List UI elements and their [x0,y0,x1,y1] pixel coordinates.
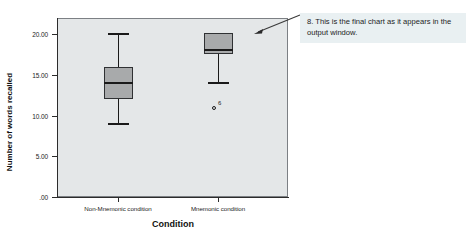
y-tick-15 [52,75,57,76]
y-tick-label-10: 10.00 [32,113,48,120]
y-tick-20 [52,34,57,35]
y-tick-0 [52,197,57,198]
x-tick-label-mnemonic: Mnemonic condition [191,205,245,212]
whisker-cap-lower [108,123,129,125]
y-tick-10 [52,116,57,117]
whisker-stem-lower [218,54,219,83]
plot-area [57,18,288,197]
x-tick-non-mnemonic [118,197,119,202]
x-axis-title: Condition [57,219,289,229]
whisker-cap-lower [208,82,229,84]
annotation-text: 8. This is the final chart as it appears… [307,17,460,38]
whisker-stem-lower [118,99,119,124]
y-tick-label-20: 20.00 [32,31,48,38]
outlier-case-label: 6 [218,100,221,106]
median-line [104,82,133,84]
y-tick-label-0: .00 [39,194,48,201]
outlier-marker [212,106,216,110]
spss-boxplot-figure: 20.00 15.00 10.00 5.00 .00 Non-Mnemonic … [0,0,466,244]
median-line [204,49,233,51]
x-tick-label-non-mnemonic: Non-Mnemonic condition [84,205,151,212]
y-axis-title: Number of words recalled [5,42,14,202]
x-tick-mnemonic [218,197,219,202]
annotation-callout: 8. This is the final chart as it appears… [300,13,466,43]
whisker-stem-upper [118,34,119,67]
y-tick-label-5: 5.00 [36,153,48,160]
x-axis-line [57,197,289,198]
y-tick-label-15: 15.00 [32,72,48,79]
y-axis-line [57,18,58,198]
y-tick-5 [52,156,57,157]
whisker-cap-upper [108,33,129,35]
